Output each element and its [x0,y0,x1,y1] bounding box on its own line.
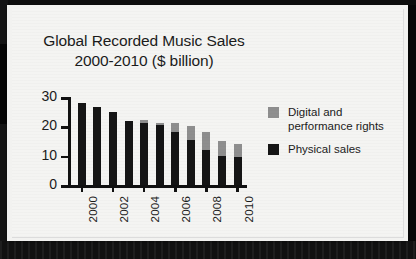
x-tick-2004 [143,186,146,192]
bar-2001 [93,107,101,185]
x-tick-2008 [205,186,208,192]
bar-segment-digital-2004 [140,120,148,123]
y-tick-0: 0 [61,185,69,188]
bar-2005 [156,123,164,185]
plot-area: 0102030 200020022004200620082010 [68,97,248,185]
x-tick-label-2002: 2002 [118,196,130,222]
y-axis-line [68,97,71,186]
x-tick-2002 [112,186,115,192]
y-tick-10: 10 [61,156,69,159]
bar-segment-physical-2007 [187,140,195,185]
y-tick-30: 30 [61,97,69,100]
bar-segment-digital-2007 [187,126,195,140]
bar-2008 [202,132,210,185]
y-tick-label-30: 30 [41,88,57,104]
bar-segment-physical-2005 [156,125,164,185]
bar-segment-physical-2001 [93,107,101,185]
physical-swatch-icon [268,144,279,155]
bar-2010 [234,144,242,185]
bar-2007 [187,126,195,185]
x-axis-line [67,185,247,188]
legend-item-digital: Digital and performance rights [268,106,403,133]
bar-segment-digital-2006 [171,123,179,132]
bar-segment-physical-2008 [202,150,210,185]
bar-segment-physical-2009 [218,156,226,185]
bar-segment-physical-2006 [171,132,179,185]
legend-label-digital-line-2: performance rights [288,120,403,134]
y-tick-20: 20 [61,126,69,129]
chart-title: Global Recorded Music Sales 2000-2010 ($… [24,31,264,71]
x-tick-label-2000: 2000 [87,196,99,222]
bar-segment-physical-2010 [234,157,242,185]
chart-card-inner: Global Recorded Music Sales 2000-2010 ($… [12,9,404,238]
backdrop-bottom-texture [0,241,416,259]
bar-2006 [171,123,179,185]
bar-segment-physical-2002 [109,112,117,185]
bar-2004 [140,120,148,185]
bar-segment-physical-2003 [125,121,133,185]
bar-2000 [78,103,86,185]
chart-title-line-2: 2000-2010 ($ billion) [24,51,264,71]
bar-segment-digital-2008 [202,132,210,150]
x-tick-2006 [174,186,177,192]
bar-2009 [218,141,226,185]
x-tick-label-2008: 2008 [211,196,223,222]
x-tick-2000 [81,186,84,192]
x-tick-label-2010: 2010 [243,196,255,222]
digital-swatch-icon [268,107,279,118]
screenshot-root: Global Recorded Music Sales 2000-2010 ($… [0,0,416,259]
x-tick-2010 [236,186,239,192]
y-tick-label-20: 20 [41,117,57,133]
x-tick-label-2004: 2004 [149,196,161,222]
chart-legend: Digital and performance rights Physical … [268,106,403,167]
bar-2003 [125,121,133,185]
y-tick-label-0: 0 [49,176,57,192]
bar-segment-digital-2009 [218,141,226,156]
x-tick-label-2006: 2006 [180,196,192,222]
legend-item-physical: Physical sales [268,143,403,157]
bar-segment-physical-2000 [78,103,86,185]
backdrop-left-dark-patch [0,44,7,124]
bar-segment-digital-2010 [234,144,242,157]
y-tick-label-10: 10 [41,147,57,163]
bar-2002 [109,112,117,185]
bar-segment-digital-2005 [156,123,164,126]
bar-segment-physical-2004 [140,123,148,185]
legend-label-physical-line-1: Physical sales [288,143,403,157]
chart-card: Global Recorded Music Sales 2000-2010 ($… [7,5,408,241]
chart-title-line-1: Global Recorded Music Sales [24,31,264,51]
legend-label-digital-line-1: Digital and [288,106,403,120]
